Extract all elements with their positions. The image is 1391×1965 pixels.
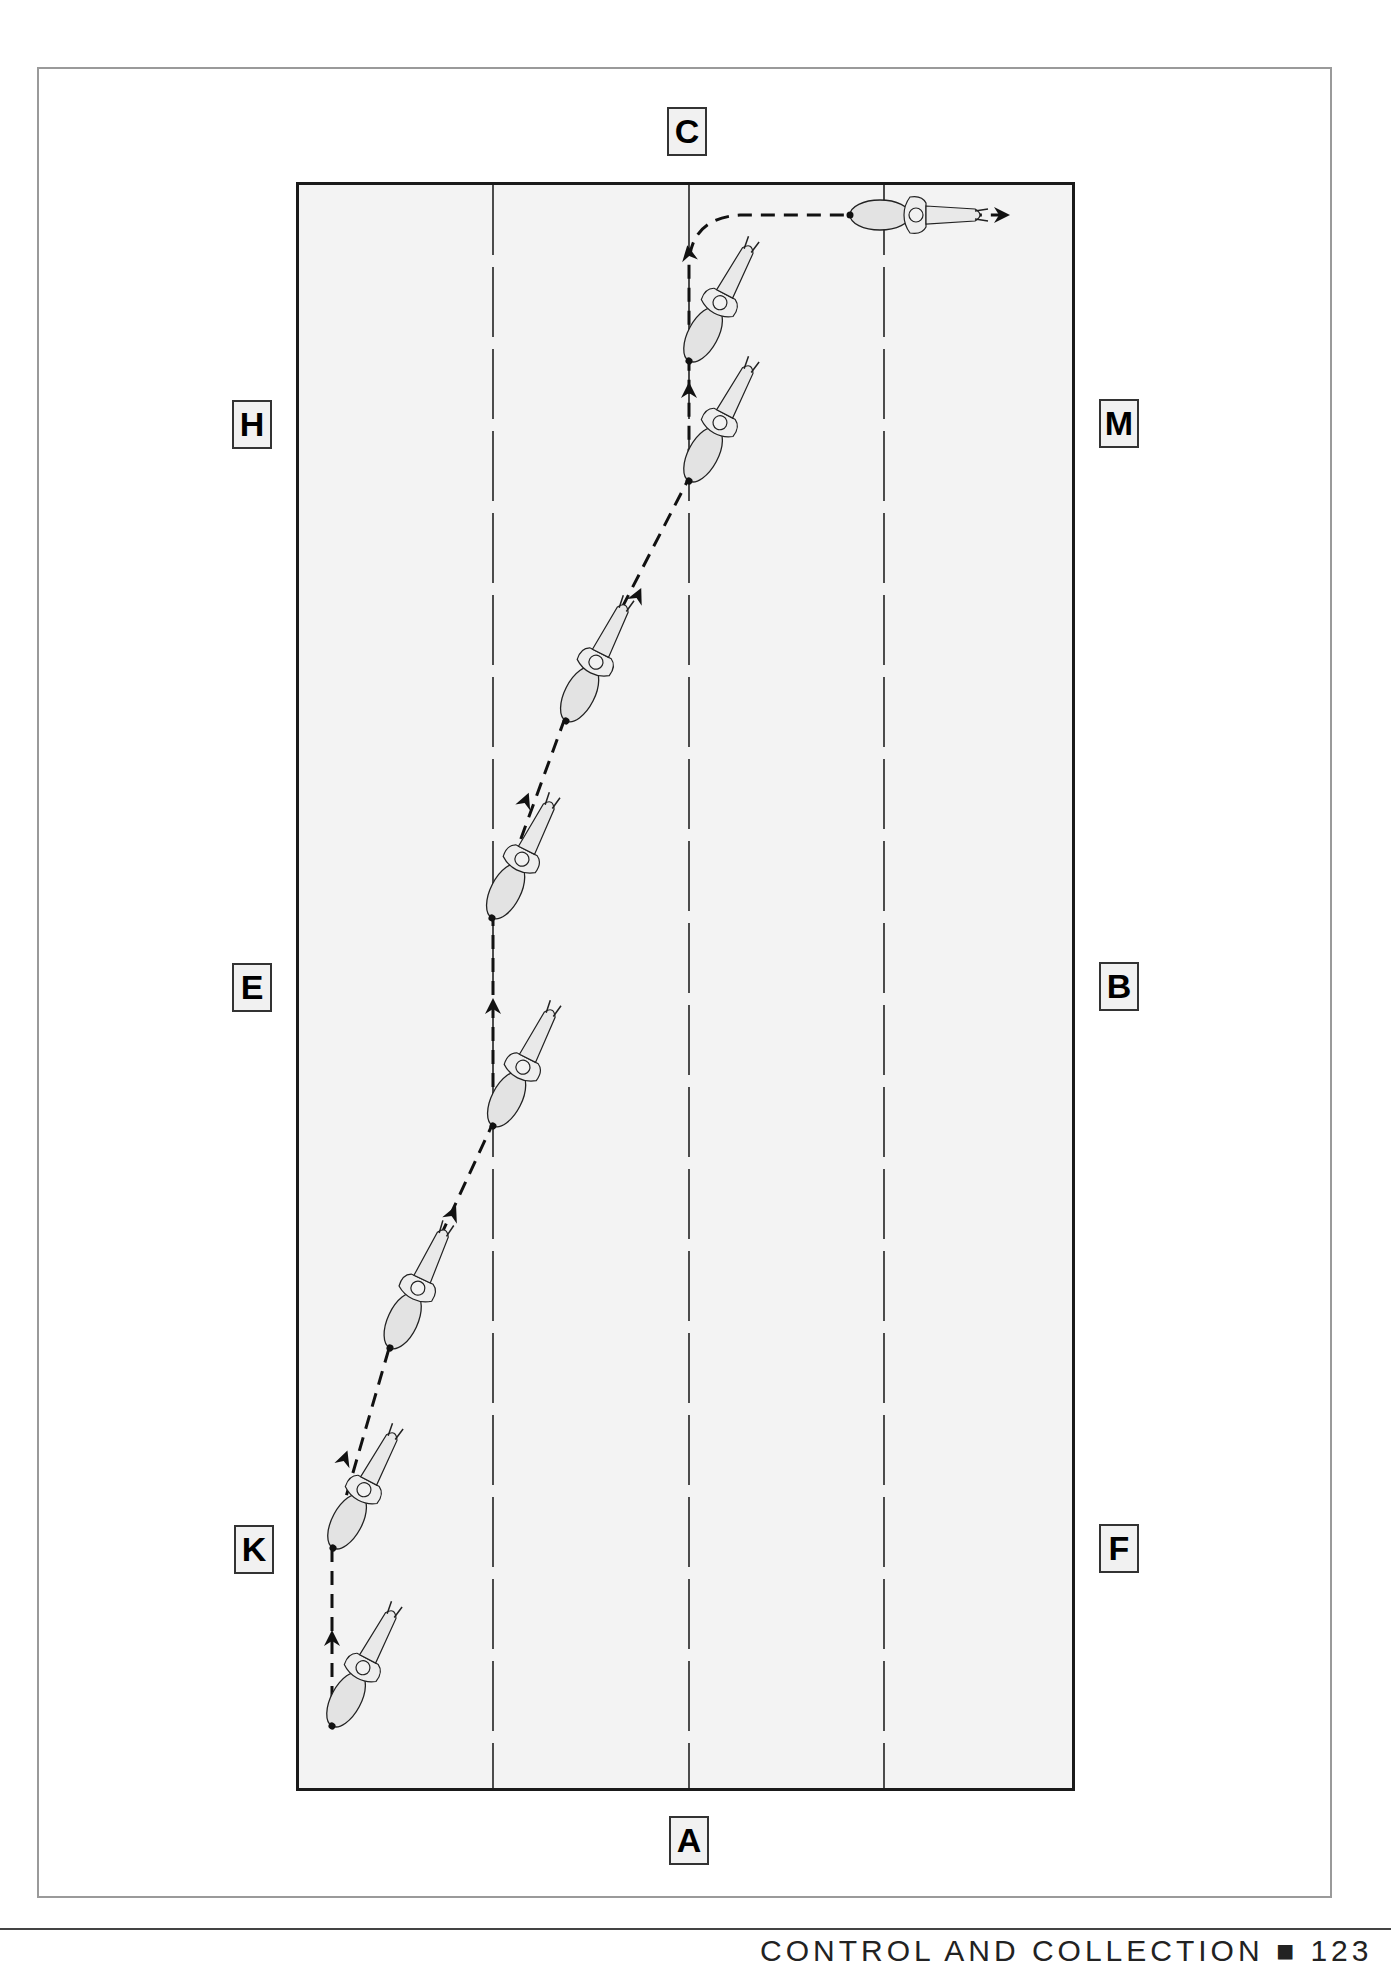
arena-letter-k: K (234, 1525, 274, 1574)
arena-letter-m: M (1099, 399, 1139, 448)
page-footer: CONTROL AND COLLECTION ■ 123 (760, 1934, 1372, 1965)
horses (314, 197, 988, 1738)
quarter-lines (493, 185, 884, 1788)
path-arrows (324, 207, 1010, 1646)
horse-figure (315, 1418, 414, 1560)
horse-figure (847, 197, 989, 234)
arena-letter-b: B (1099, 962, 1139, 1011)
arena-letter-h: H (232, 400, 272, 449)
horse-figure (474, 787, 571, 930)
arena-letter-f: F (1099, 1524, 1139, 1573)
arena-letter-c: C (667, 107, 707, 156)
arena-letter-a: A (669, 1816, 709, 1865)
horse-figure (548, 590, 645, 733)
horse-figure (372, 1215, 465, 1359)
footer-rule (0, 1928, 1391, 1930)
arena-letter-e: E (232, 963, 272, 1012)
horse-figure (671, 351, 770, 493)
horse-figure (475, 995, 572, 1138)
horse-figure (314, 1596, 413, 1738)
rider-path (332, 215, 1000, 1723)
